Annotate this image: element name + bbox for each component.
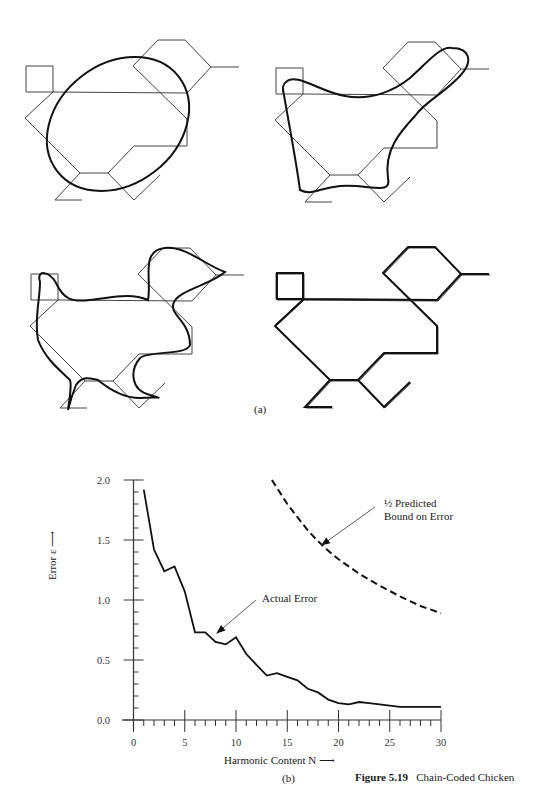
svg-text:0.0: 0.0 [97, 715, 110, 726]
error-chart: 0.00.51.01.52.0051015202530 [0, 0, 541, 809]
svg-text:30: 30 [436, 737, 447, 748]
x-axis-label: Harmonic Content N ⟶ [224, 754, 335, 767]
svg-text:0.5: 0.5 [97, 655, 110, 666]
actual-error-label: Actual Error [262, 592, 317, 604]
svg-text:20: 20 [333, 737, 344, 748]
svg-text:15: 15 [282, 737, 293, 748]
panel-b-label: (b) [282, 772, 295, 784]
svg-text:2.0: 2.0 [97, 475, 110, 486]
bound-label-line2: Bound on Error [384, 510, 453, 522]
figure-caption: Figure 5.19 Chain-Coded Chicken [355, 771, 514, 783]
bound-label-line1: ½ Predicted [384, 497, 437, 509]
svg-text:5: 5 [182, 737, 187, 748]
svg-text:25: 25 [385, 737, 396, 748]
svg-text:1.0: 1.0 [97, 595, 110, 606]
y-axis-label: Error ε ⟶ [46, 531, 59, 580]
svg-text:0: 0 [131, 737, 136, 748]
svg-text:1.5: 1.5 [97, 535, 110, 546]
svg-text:10: 10 [231, 737, 242, 748]
